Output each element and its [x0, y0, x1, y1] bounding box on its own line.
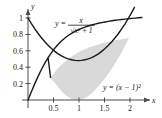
curve1-label-denominator: √x² + 1 [70, 26, 92, 35]
y-tick-label-0.6: 0.6 [13, 47, 23, 56]
plot-svg: y x 0.5 1 1.5 2 0.2 0.4 0.6 0.8 1 y = x … [0, 0, 162, 118]
y-tick-label-0.8: 0.8 [13, 30, 23, 39]
curve2-label: y = (x − 1)² [102, 83, 141, 92]
curve1-label-lhs: y = [54, 19, 66, 28]
y-axis-label: y [30, 2, 35, 11]
y-tick-label-1: 1 [19, 14, 23, 23]
figure-container: y x 0.5 1 1.5 2 0.2 0.4 0.6 0.8 1 y = x … [0, 0, 162, 118]
x-tick-label-1: 1 [77, 104, 81, 113]
curve1-label-numerator: x [78, 16, 83, 25]
y-axis-arrow [26, 9, 31, 15]
x-axis-label: x [151, 96, 156, 105]
y-tick-label-0.4: 0.4 [13, 63, 23, 72]
x-tick-label-0.5: 0.5 [49, 104, 59, 113]
x-tick-label-1.5: 1.5 [100, 104, 110, 113]
y-tick-label-0.2: 0.2 [13, 80, 23, 89]
x-tick-label-2: 2 [128, 104, 132, 113]
x-axis-arrow [144, 98, 150, 103]
